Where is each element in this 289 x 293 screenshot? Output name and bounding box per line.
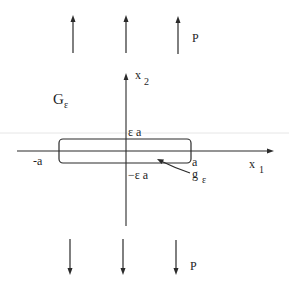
axis-arrow-right-icon: [267, 149, 274, 154]
elastic-plate-with-slit-diagram: P x 2 G ε x 1 ε a -a a −ε a g ε: [0, 0, 289, 293]
load-arrow-down-icon: [68, 239, 73, 275]
load-arrow-down-icon: [121, 239, 126, 275]
tick-label-left: -a: [33, 154, 43, 168]
vertical-axis: x 2: [124, 68, 149, 226]
boundary-label-main: g: [192, 167, 198, 181]
axis-arrow-up-icon: [124, 73, 129, 80]
tick-label-bottom: −ε a: [128, 168, 149, 182]
bottom-load-label: P: [190, 259, 197, 273]
load-arrow-down-icon: [174, 240, 179, 275]
load-arrow-up-icon: [176, 16, 181, 54]
region-label-subscript: ε: [64, 99, 68, 110]
vertical-axis-label: x: [135, 68, 141, 82]
top-load-label: P: [192, 31, 199, 45]
bottom-load-arrows: P: [68, 239, 198, 275]
horizontal-axis-label: x: [249, 157, 255, 171]
boundary-label-subscript: ε: [202, 174, 206, 185]
region-label: G ε: [53, 91, 68, 110]
load-arrow-up-icon: [124, 15, 129, 53]
load-arrow-up-icon: [71, 15, 76, 53]
vertical-axis-subscript: 2: [144, 76, 149, 87]
top-load-arrows: P: [71, 15, 200, 54]
tick-label-top: ε a: [128, 125, 142, 139]
horizontal-axis-subscript: 1: [259, 164, 264, 175]
region-label-main: G: [53, 91, 64, 107]
